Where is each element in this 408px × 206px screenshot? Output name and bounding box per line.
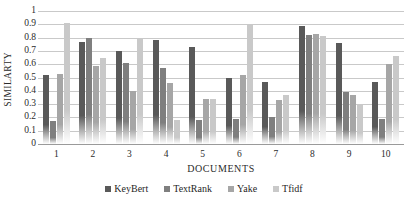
legend-swatch-icon <box>273 186 279 192</box>
bar-group <box>331 11 368 144</box>
x-axis-tick-label: 10 <box>367 147 404 161</box>
bar <box>262 82 268 145</box>
x-axis-tick-label: 4 <box>148 147 185 161</box>
bar <box>123 63 129 144</box>
x-axis-tick-label: 9 <box>331 147 368 161</box>
x-axis-title-label: DOCUMENTS <box>187 163 255 174</box>
bar <box>247 24 253 144</box>
legend-item-keybert[interactable]: KeyBert <box>105 184 148 194</box>
legend-item-yake[interactable]: Yake <box>228 184 257 194</box>
bar <box>276 100 282 144</box>
y-axis-tick-label: 0.9 <box>24 20 36 30</box>
bar <box>79 42 85 144</box>
bar <box>100 58 106 144</box>
bar <box>167 83 173 144</box>
legend-item-textrank[interactable]: TextRank <box>164 184 212 194</box>
bar-group <box>38 11 75 144</box>
plot-area <box>38 11 404 144</box>
legend-label: TextRank <box>173 184 212 194</box>
y-axis-tick-label: 0.2 <box>24 113 36 123</box>
legend-swatch-icon <box>164 186 170 192</box>
bar <box>357 104 363 144</box>
x-axis-tick-label: 6 <box>221 147 258 161</box>
bar <box>386 64 392 144</box>
bar <box>93 66 99 144</box>
y-axis-tick-label: 0.8 <box>24 33 36 43</box>
similarity-bar-chart: SIMILARTY 10.90.80.70.60.50.40.30.20.10 … <box>0 0 408 206</box>
bar <box>130 91 136 144</box>
legend-swatch-icon <box>105 186 111 192</box>
x-axis-tick-label: 2 <box>75 147 112 161</box>
y-axis-tick-label: 0.7 <box>24 46 36 56</box>
bar <box>350 95 356 144</box>
y-axis-tick-label: 0.5 <box>24 73 36 83</box>
bar-group <box>258 11 295 144</box>
bar <box>343 92 349 144</box>
y-axis-title-label: SIMILARTY <box>3 52 13 107</box>
y-axis-tick-label: 0.6 <box>24 59 36 69</box>
bar <box>226 78 232 145</box>
bar <box>299 26 305 144</box>
bar <box>43 75 49 144</box>
y-axis-tick-label: 0.4 <box>24 86 36 96</box>
bar <box>160 68 166 144</box>
x-axis-title: DOCUMENTS <box>38 163 404 174</box>
bar <box>306 35 312 144</box>
legend-label: KeyBert <box>114 184 148 194</box>
bar <box>393 56 399 144</box>
bar <box>372 82 378 145</box>
bar <box>210 99 216 144</box>
bar <box>240 75 246 144</box>
y-axis-tick-label: 0 <box>31 139 36 149</box>
chart-legend: KeyBertTextRankYakeTfidf <box>0 184 408 194</box>
bar-group <box>184 11 221 144</box>
bar <box>153 40 159 144</box>
bar <box>86 38 92 144</box>
bar <box>174 120 180 144</box>
x-axis-tick-label: 5 <box>184 147 221 161</box>
legend-swatch-icon <box>228 186 234 192</box>
bar-groups <box>38 11 404 144</box>
gridline <box>38 144 404 145</box>
legend-label: Tfidf <box>282 184 303 194</box>
y-axis-tick-labels: 10.90.80.70.60.50.40.30.20.10 <box>14 11 36 144</box>
x-axis-tick-label: 1 <box>38 147 75 161</box>
bar-group <box>294 11 331 144</box>
bar <box>189 47 195 144</box>
bar <box>320 36 326 144</box>
x-axis-tick-label: 8 <box>294 147 331 161</box>
x-axis-tick-labels: 12345678910 <box>38 147 404 161</box>
legend-item-tfidf[interactable]: Tfidf <box>273 184 303 194</box>
bar-group <box>111 11 148 144</box>
bar <box>57 74 63 144</box>
bar-group <box>367 11 404 144</box>
bar <box>203 99 209 144</box>
x-axis-tick-label: 7 <box>258 147 295 161</box>
bar-group <box>75 11 112 144</box>
bar <box>64 23 70 144</box>
bar <box>313 34 319 144</box>
bar <box>50 121 56 144</box>
bar <box>116 51 122 144</box>
bar <box>336 43 342 144</box>
bar <box>233 119 239 144</box>
y-axis-tick-label: 1 <box>31 6 36 16</box>
x-axis-tick-label: 3 <box>111 147 148 161</box>
bar <box>379 119 385 144</box>
bar <box>269 117 275 144</box>
bar <box>137 38 143 144</box>
y-axis-tick-label: 0.3 <box>24 99 36 109</box>
legend-label: Yake <box>237 184 257 194</box>
bar <box>196 120 202 144</box>
bar-group <box>221 11 258 144</box>
y-axis-tick-label: 0.1 <box>24 126 36 136</box>
bar <box>283 95 289 144</box>
bar-group <box>148 11 185 144</box>
